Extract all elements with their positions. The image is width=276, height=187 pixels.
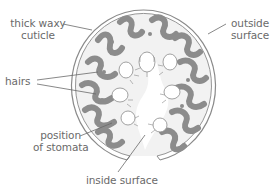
label-line: of stomata	[33, 141, 81, 153]
leader-outside	[208, 24, 226, 34]
label-text: inside surface	[86, 174, 158, 186]
label-text: hairs	[5, 75, 30, 87]
label-thick-waxy-cuticle: thick waxy cuticle	[10, 17, 66, 41]
label-position-of-stomata: position of stomata	[33, 129, 81, 153]
label-hairs: hairs	[5, 75, 30, 87]
label-line: outside	[231, 17, 269, 29]
label-outside-surface: outside surface	[231, 17, 269, 41]
label-line: thick waxy	[10, 17, 66, 29]
label-line: cuticle	[10, 29, 66, 41]
label-line: position	[33, 129, 81, 141]
label-inside-surface: inside surface	[86, 174, 158, 186]
label-line: surface	[231, 29, 269, 41]
leader-cuticle	[63, 24, 92, 30]
